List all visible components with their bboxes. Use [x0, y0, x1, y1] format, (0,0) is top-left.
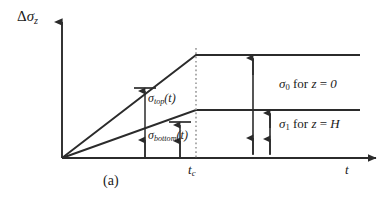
sigma0-for-text: for	[290, 76, 312, 91]
figure-caption: (a)	[103, 174, 119, 188]
figure-container: Δσz t tc σtop(t) σbottom(t) σ0 for z = 0…	[0, 0, 388, 209]
sigma1-legend-label: σ1 for z = H	[279, 117, 340, 132]
y-axis-delta: Δ	[17, 8, 27, 24]
sigma-top-label: σtop(t)	[148, 92, 176, 106]
sigma-bottom-argument: (t)	[177, 128, 188, 142]
sigma1-equals: =	[316, 116, 330, 131]
sigma-top-argument: (t)	[164, 91, 175, 105]
critical-time-label: tc	[188, 163, 196, 178]
sigma-bottom-label: σbottom(t)	[148, 129, 188, 143]
sigma0-value: 0	[330, 76, 337, 91]
critical-time-subscript: c	[192, 168, 196, 178]
sigma-bottom-subscript: bottom	[154, 134, 177, 143]
y-axis-sigma: σ	[27, 8, 34, 24]
x-axis-label: t	[345, 163, 349, 176]
sigma1-value: H	[330, 116, 339, 131]
sigma0-legend-label: σ0 for z = 0	[279, 77, 337, 92]
y-axis-subscript: z	[34, 15, 38, 26]
y-axis-label: Δσz	[17, 9, 38, 26]
sigma0-equals: =	[316, 76, 330, 91]
sigma-top-subscript: top	[154, 97, 164, 106]
sigma1-for-text: for	[290, 116, 312, 131]
